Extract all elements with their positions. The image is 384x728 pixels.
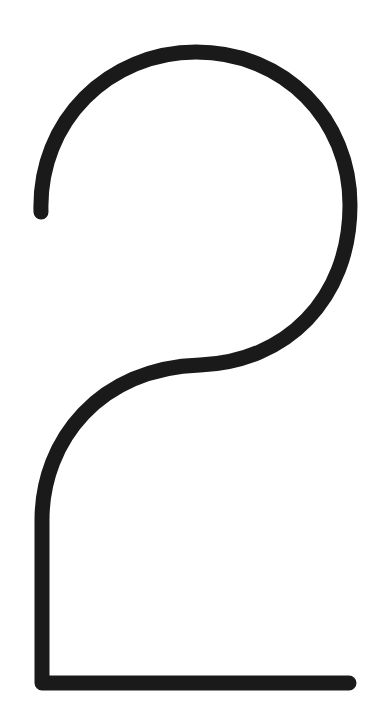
numeral-two-icon (0, 0, 384, 728)
numeral-two-stroke (41, 52, 350, 683)
numeral-two-figure: 2 (0, 0, 384, 728)
